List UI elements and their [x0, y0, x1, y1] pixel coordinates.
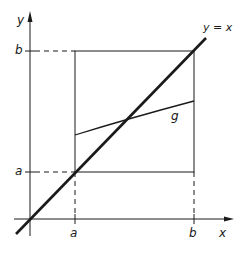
x-tick-label-a: a: [70, 227, 77, 239]
diagonal-label: y = x: [203, 22, 232, 33]
y-tick-label-b: b: [15, 44, 23, 56]
x-axis: [14, 217, 234, 222]
y-axis-label: y: [17, 14, 24, 26]
x-axis-arrow-icon: [224, 217, 234, 222]
y-tick-label-a: a: [15, 165, 22, 177]
fixed-point-diagram: [0, 0, 242, 253]
x-tick-label-b: b: [189, 227, 197, 239]
x-axis-label: x: [219, 227, 226, 239]
curve-g-label: g: [171, 110, 179, 122]
y-axis-arrow-icon: [28, 11, 33, 22]
y-axis: [28, 11, 33, 236]
diagonal-y-equals-x: [16, 38, 206, 234]
